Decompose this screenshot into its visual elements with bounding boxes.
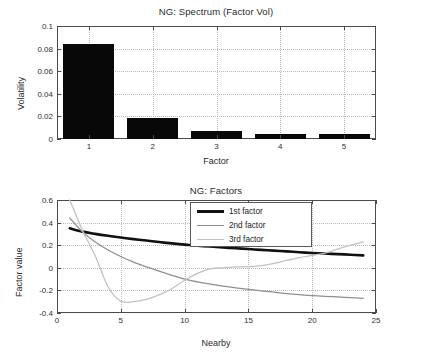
x-tick-mark [153, 26, 154, 30]
x-tick-label: 25 [372, 313, 381, 325]
legend-swatch [197, 239, 224, 240]
y-tick-mark [57, 290, 61, 291]
y-tick-mark [372, 116, 376, 117]
x-tick-mark [57, 200, 58, 204]
x-tick-label: 20 [308, 313, 317, 325]
y-tick-label: 0.4 [42, 218, 57, 227]
spectrum-x-axis-label: Factor [0, 156, 432, 166]
x-tick-mark [280, 26, 281, 30]
factors-chart-title: NG: Factors [0, 185, 432, 196]
factors-line-chart-panel: NG: Factors -0.4-0.200.20.40.6 051015202… [0, 181, 432, 362]
y-tick-label: 0.08 [37, 44, 57, 53]
y-tick-label: 0 [49, 135, 57, 144]
y-tick-mark [57, 94, 61, 95]
y-tick-mark [57, 139, 61, 140]
y-tick-mark [57, 49, 61, 50]
legend-swatch [197, 210, 224, 213]
gridline-vertical [344, 26, 345, 139]
x-tick-mark [185, 200, 186, 204]
factors-y-axis-label: Factor value [14, 247, 24, 297]
x-tick-mark [376, 200, 377, 204]
x-tick-label: 5 [342, 139, 346, 151]
spectrum-bar-chart-panel: NG: Spectrum (Factor Vol) 00.020.040.060… [0, 0, 432, 181]
gridline-vertical [217, 26, 218, 139]
y-tick-label: -0.2 [39, 286, 57, 295]
x-tick-mark [344, 26, 345, 30]
factors-legend: 1st factor2nd factor3rd factor [190, 202, 312, 247]
x-tick-label: 5 [119, 313, 123, 325]
legend-line-sample [197, 210, 224, 213]
legend-item-2nd-factor: 2nd factor [191, 219, 265, 232]
x-tick-label: 3 [214, 139, 218, 151]
legend-item-1st-factor: 1st factor [191, 205, 263, 218]
y-tick-label: 0.04 [37, 89, 57, 98]
x-tick-mark [312, 200, 313, 204]
x-tick-label: 1 [87, 139, 91, 151]
y-tick-mark [372, 245, 376, 246]
legend-line-sample [197, 225, 224, 226]
y-tick-mark [57, 26, 61, 27]
y-tick-mark [57, 71, 61, 72]
y-tick-mark [372, 223, 376, 224]
y-tick-mark [372, 268, 376, 269]
y-tick-mark [372, 94, 376, 95]
x-tick-label: 2 [150, 139, 154, 151]
legend-item-3rd-factor: 3rd factor [191, 233, 264, 246]
factors-plot-area: -0.4-0.200.20.40.6 0510152025 1st factor… [57, 200, 376, 313]
y-tick-mark [372, 71, 376, 72]
legend-label: 2nd factor [229, 221, 265, 230]
figure-canvas: NG: Spectrum (Factor Vol) 00.020.040.060… [0, 0, 432, 362]
gridline-vertical [280, 26, 281, 139]
x-tick-mark [217, 26, 218, 30]
y-tick-label: 0.6 [42, 196, 57, 205]
y-tick-label: 0.02 [37, 112, 57, 121]
x-tick-label: 15 [244, 313, 253, 325]
legend-label: 3rd factor [229, 235, 264, 244]
y-tick-mark [372, 49, 376, 50]
factors-x-axis-label: Nearby [0, 338, 432, 348]
y-tick-mark [57, 245, 61, 246]
legend-label: 1st factor [229, 207, 263, 216]
y-tick-mark [57, 116, 61, 117]
y-tick-mark [57, 268, 61, 269]
x-tick-mark [121, 200, 122, 204]
x-tick-mark [89, 26, 90, 30]
y-tick-label: 0 [49, 263, 57, 272]
legend-swatch [197, 225, 224, 226]
y-tick-label: 0.06 [37, 67, 57, 76]
y-tick-mark [372, 139, 376, 140]
spectrum-chart-title: NG: Spectrum (Factor Vol) [0, 6, 432, 17]
x-tick-label: 0 [55, 313, 59, 325]
bar-factor-1 [63, 44, 114, 139]
x-tick-label: 4 [278, 139, 282, 151]
y-tick-label: 0.2 [42, 241, 57, 250]
y-tick-mark [372, 26, 376, 27]
legend-line-sample [197, 239, 224, 240]
spectrum-y-axis-label: Volatility [16, 77, 26, 110]
y-tick-label: 0.1 [42, 22, 57, 31]
x-tick-label: 10 [180, 313, 189, 325]
y-tick-mark [57, 223, 61, 224]
y-tick-mark [372, 290, 376, 291]
spectrum-plot-area: 00.020.040.060.080.1 12345 [57, 26, 376, 139]
